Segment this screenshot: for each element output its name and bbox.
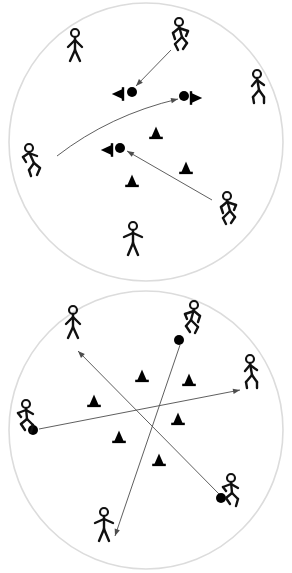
cone-top-right-base xyxy=(182,384,196,386)
field-boundary-group-bottom xyxy=(9,291,283,569)
cone-beside-ball-upper-base xyxy=(122,87,124,101)
cone-lower-left-base xyxy=(112,441,126,443)
field-boundary-bottom xyxy=(9,291,283,569)
ball-upper xyxy=(127,87,137,97)
field-boundary-top xyxy=(9,3,283,281)
cone-beside-ball-center-base xyxy=(111,143,113,157)
cone-top-center-base xyxy=(135,380,149,382)
field-svg-bottom xyxy=(0,287,292,573)
ball-right xyxy=(179,91,189,101)
drill-panel-top xyxy=(0,0,292,287)
cone-lower-right-upright-base xyxy=(179,172,193,174)
player-right-walking-limb-6 xyxy=(246,382,247,388)
ball-lower-right xyxy=(216,493,226,503)
cone-mid-left-base xyxy=(87,405,101,407)
ball-center xyxy=(115,143,125,153)
cone-beside-ball-right-base xyxy=(190,91,192,105)
field-svg-top xyxy=(0,0,292,287)
ball-upper-right xyxy=(174,335,184,345)
cone-lower-left-upright-base xyxy=(125,185,139,187)
cone-mid-right-base xyxy=(171,423,185,425)
cone-lower-center-base xyxy=(152,464,166,466)
cone-mid-upright-base xyxy=(149,137,163,139)
field-boundary-group-top xyxy=(9,3,283,281)
player-right-walking-limb-6 xyxy=(253,97,254,103)
drill-panel-bottom xyxy=(0,287,292,573)
drill-diagram-figure: Soccer drill diagram xyxy=(0,0,292,573)
